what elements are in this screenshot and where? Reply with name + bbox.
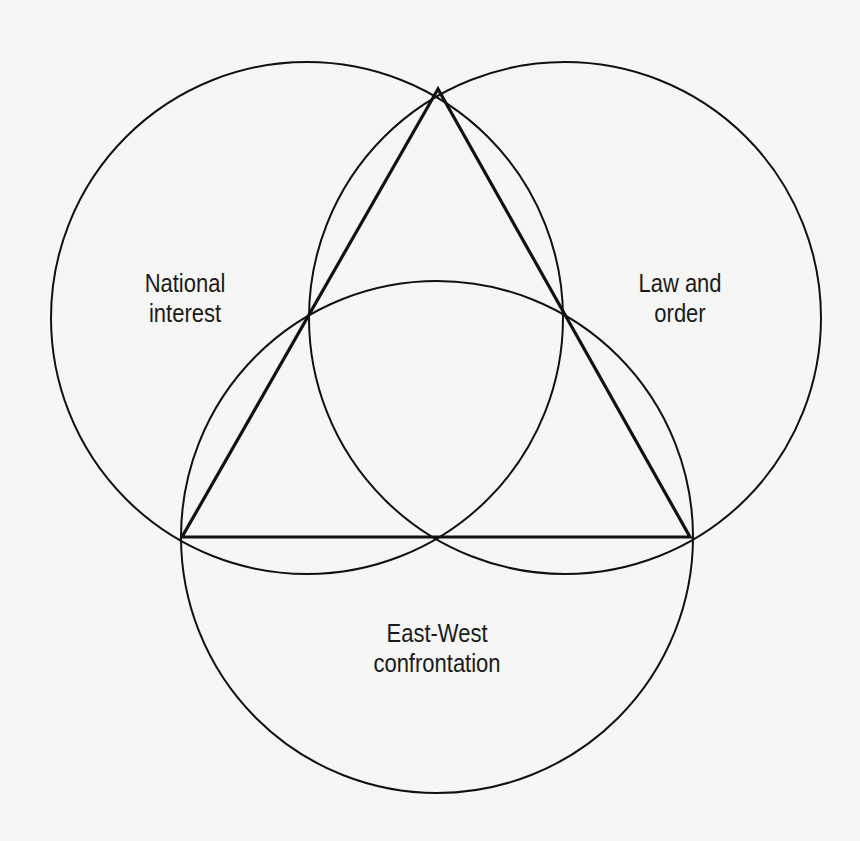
label-line: interest bbox=[119, 298, 251, 328]
label-line: confrontation bbox=[349, 648, 525, 678]
label-east-west-confrontation: East-West confrontation bbox=[349, 618, 525, 678]
diagram-canvas: National interest Law and order East-Wes… bbox=[0, 0, 860, 841]
label-line: order bbox=[614, 298, 746, 328]
label-law-and-order: Law and order bbox=[614, 268, 746, 328]
venn-diagram bbox=[0, 0, 860, 841]
label-national-interest: National interest bbox=[119, 268, 251, 328]
label-line: Law and bbox=[614, 268, 746, 298]
label-line: National bbox=[119, 268, 251, 298]
label-line: East-West bbox=[349, 618, 525, 648]
